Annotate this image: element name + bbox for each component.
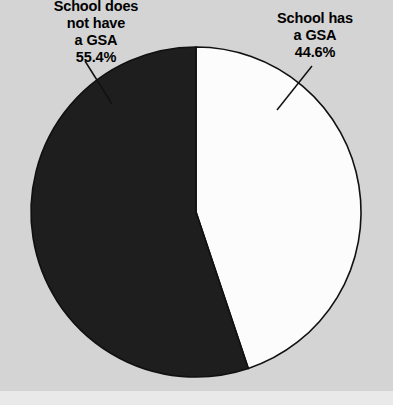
pie-label-left-line-3: a GSA bbox=[26, 32, 166, 49]
pie-label-left-line-1: School does bbox=[26, 0, 166, 15]
pie-label-left-line-2: not have bbox=[26, 15, 166, 32]
pie-label-right-line-1: School has bbox=[251, 10, 379, 27]
pie-chart-figure: School does not have a GSA 55.4% School … bbox=[0, 0, 393, 405]
pie-label-right-value: 44.6% bbox=[251, 44, 379, 61]
pie-label-right-line-2: a GSA bbox=[251, 27, 379, 44]
pie-label-school-no-gsa: School does not have a GSA 55.4% bbox=[26, 0, 166, 66]
pie-label-left-value: 55.4% bbox=[26, 49, 166, 66]
pie-label-school-has-gsa: School has a GSA 44.6% bbox=[251, 10, 379, 61]
